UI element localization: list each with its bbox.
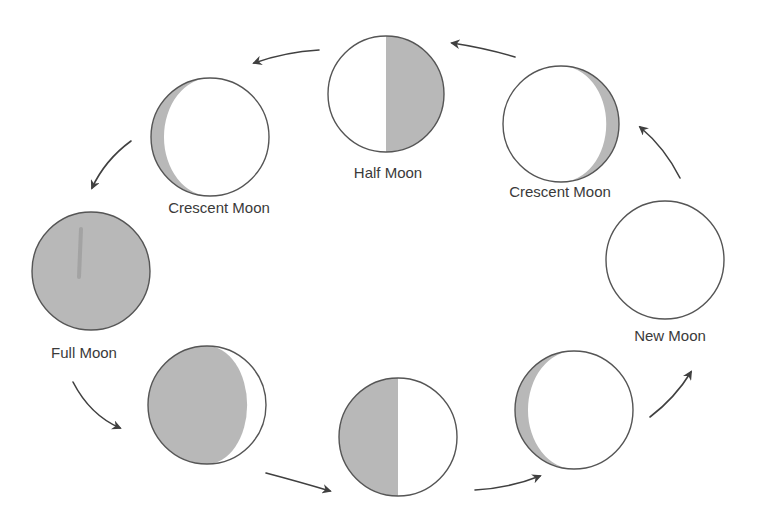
full-moon-label: Full Moon [51, 345, 117, 360]
full-moon [32, 212, 150, 330]
half-moon-bottom [339, 378, 457, 496]
arrow-left-crescent-to-full-icon [92, 141, 131, 188]
half-moon-top [328, 36, 444, 152]
crescent-moon-left [151, 78, 269, 196]
gibbous-moon-bottom-left [148, 346, 266, 464]
crescent-moon-bottom-right [515, 351, 633, 469]
arrow-right-crescent-to-half-icon [452, 43, 515, 57]
new-moon-label: New Moon [634, 328, 706, 343]
arrow-crescent-to-new-icon [650, 372, 691, 417]
arrow-gibbous-to-bottom-half-icon [266, 473, 330, 491]
moon-phases [32, 36, 724, 496]
crescent-moon-right [503, 66, 619, 182]
arrow-half-to-left-crescent-icon [254, 50, 319, 63]
new-moon [606, 201, 724, 319]
crescent-moon-left-label: Crescent Moon [168, 200, 270, 215]
arrow-bottom-half-to-crescent-icon [475, 476, 540, 490]
arrow-full-to-gibbous-icon [73, 382, 120, 428]
arrow-new-to-right-crescent-icon [640, 127, 680, 178]
crescent-moon-right-label: Crescent Moon [509, 184, 611, 199]
half-moon-top-label: Half Moon [354, 165, 422, 180]
moon-phases-diagram [0, 0, 762, 521]
